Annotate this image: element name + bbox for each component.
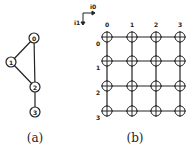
edge-0-2: [34, 38, 35, 87]
grid-lines: [107, 37, 180, 111]
grid-node-2-0: [101, 80, 113, 92]
row-label-1: 1: [96, 64, 100, 71]
axis-indicator: [81, 11, 95, 25]
grid-node-0-0: [101, 31, 113, 43]
col-label-0: 0: [105, 21, 109, 28]
col-label-3: 3: [178, 21, 182, 28]
col-label-1: 1: [130, 21, 134, 28]
grid-node-2-2: [150, 80, 162, 92]
grid-node-3-1: [126, 105, 138, 117]
arrow-down-icon: [81, 22, 85, 25]
row-label-0: 0: [96, 40, 100, 47]
grid-node-3-0: [101, 105, 113, 117]
grid-node-1-3: [174, 55, 186, 67]
caption-b: (b): [126, 131, 143, 145]
grid-node-0-1: [126, 31, 138, 43]
grid-node-3-3: [174, 105, 186, 117]
node-3-label: 3: [33, 109, 37, 116]
node-1-label: 1: [9, 59, 13, 66]
grid-node-1-0: [101, 55, 113, 67]
node-0-label: 0: [32, 35, 36, 42]
grid-node-1-2: [150, 55, 162, 67]
grid-node-2-3: [174, 80, 186, 92]
caption-a: (a): [27, 131, 44, 145]
grid-node-2-1: [126, 80, 138, 92]
grid-node-3-2: [150, 105, 162, 117]
grid-node-0-3: [174, 31, 186, 43]
node-2-label: 2: [33, 84, 37, 91]
grid-node-1-1: [126, 55, 138, 67]
graph-a: [11, 38, 35, 112]
grid-node-0-2: [150, 31, 162, 43]
figure-canvas: 0 1 2 3 (a) i0 i1 0 1 2 3 0 1 2 3: [0, 0, 194, 149]
row-label-3: 3: [96, 114, 100, 121]
axis-i1-label: i1: [74, 19, 80, 26]
row-label-2: 2: [96, 89, 100, 96]
arrow-right-icon: [92, 11, 95, 15]
col-label-2: 2: [154, 21, 158, 28]
grid-nodes: [101, 31, 186, 117]
axis-i0-label: i0: [90, 3, 96, 10]
